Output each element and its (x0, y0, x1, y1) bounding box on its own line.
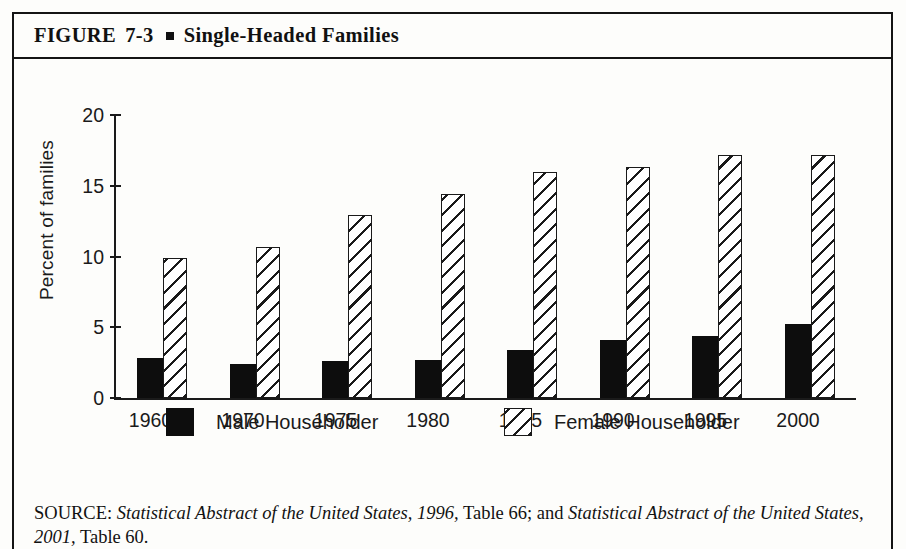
y-tick-label: 20 (82, 104, 104, 127)
figure-frame: FIGURE7-3Single-Headed Families Percent … (12, 12, 893, 549)
legend-swatch-male-icon (166, 408, 194, 436)
y-tick-label: 0 (93, 387, 104, 410)
bar-male (322, 361, 348, 398)
y-tick-label: 15 (82, 174, 104, 197)
source-ref2-table: Table 60. (80, 527, 149, 547)
legend-swatch-female-icon (504, 408, 532, 436)
chart-legend: Male Householder Female Householder (14, 408, 891, 454)
bar-male (507, 350, 533, 398)
legend-label-male: Male Householder (216, 411, 378, 434)
bar-group (764, 115, 859, 398)
bar-male (137, 358, 163, 398)
bar-female (348, 215, 372, 398)
bar-female (256, 247, 280, 398)
legend-item-female: Female Householder (504, 408, 740, 436)
figure-label: FIGURE (34, 24, 116, 46)
bar-female (626, 167, 650, 398)
bar-female (163, 258, 187, 398)
bar-male (785, 324, 811, 398)
source-ref1-title: Statistical Abstract of the United State… (117, 503, 459, 523)
bar-group (394, 115, 489, 398)
bar-male (230, 364, 256, 398)
bars-container (116, 115, 856, 398)
source-ref1-table: Table 66; and (463, 503, 563, 523)
legend-item-male: Male Householder (166, 408, 378, 436)
y-tick-label: 10 (82, 245, 104, 268)
bar-male (692, 336, 718, 398)
figure-title: FIGURE7-3Single-Headed Families (34, 24, 399, 47)
y-tick-label: 5 (93, 316, 104, 339)
bar-group (209, 115, 304, 398)
x-axis-line (114, 398, 856, 400)
bar-group (579, 115, 674, 398)
square-bullet-icon (166, 32, 174, 40)
source-note: SOURCE: Statistical Abstract of the Unit… (34, 501, 884, 549)
bar-female (718, 155, 742, 398)
figure-title-text: Single-Headed Families (184, 24, 400, 46)
bar-group (671, 115, 766, 398)
bar-male (600, 340, 626, 398)
figure-header: FIGURE7-3Single-Headed Families (14, 14, 891, 59)
bar-male (415, 360, 441, 398)
bar-group (486, 115, 581, 398)
bar-female (441, 194, 465, 398)
bar-female (811, 155, 835, 398)
y-axis-ticks: 05101520 (54, 59, 116, 399)
source-prefix: SOURCE: (34, 503, 112, 523)
bar-group (301, 115, 396, 398)
legend-label-female: Female Householder (554, 411, 740, 434)
figure-number: 7-3 (125, 24, 154, 46)
bar-female (533, 172, 557, 398)
bar-group (116, 115, 211, 398)
